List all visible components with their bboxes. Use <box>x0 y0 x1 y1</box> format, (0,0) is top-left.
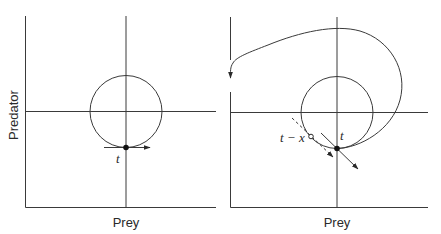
predator-prey-diagram: t Prey Predator t − x t Prey <box>0 0 441 234</box>
right-panel: t − x t Prey <box>230 17 428 230</box>
right-x-axis-label: Prey <box>324 215 351 230</box>
right-point-label: t <box>340 128 344 143</box>
left-state-point <box>123 145 129 151</box>
left-x-axis-label: Prey <box>113 215 140 230</box>
right-delayed-point-label: t − x <box>280 130 305 145</box>
left-point-label: t <box>116 151 120 166</box>
left-panel: t Prey Predator <box>6 16 217 230</box>
left-y-axis-label: Predator <box>6 89 21 140</box>
right-outer-trajectory <box>230 28 401 148</box>
right-current-state-point <box>334 146 340 152</box>
right-delayed-state-point <box>309 134 314 139</box>
